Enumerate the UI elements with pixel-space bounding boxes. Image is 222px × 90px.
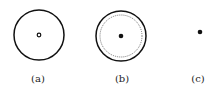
figure-b (96, 11, 146, 61)
label-a: (a) (31, 73, 45, 84)
hollow-center-dot-a (37, 33, 41, 37)
figure-c (198, 30, 203, 35)
label-b: (b) (115, 73, 129, 84)
label-c: (c) (191, 73, 204, 84)
figure-a (14, 10, 64, 60)
filled-dot-c (198, 30, 203, 35)
filled-center-dot-b (119, 34, 124, 39)
